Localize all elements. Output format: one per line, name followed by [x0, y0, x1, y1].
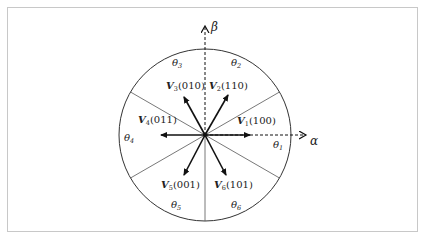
sector-label-5: θ5 [171, 199, 181, 212]
vector-label-v5: V5(001) [161, 179, 200, 192]
vector-label-v2: V2(110) [209, 80, 248, 93]
vector-label-v4: V4(011) [138, 114, 177, 127]
vector-v2 [205, 95, 228, 135]
origin-point [203, 133, 207, 137]
vector-label-v1: V1(100) [237, 115, 276, 128]
vector-label-v3: V3(010) [166, 80, 205, 93]
sector-label-3: θ3 [172, 57, 182, 70]
vector-label-v6: V6(101) [214, 179, 253, 192]
sector-label-2: θ2 [231, 57, 241, 70]
sector-label-4: θ4 [124, 132, 134, 145]
vector-diagram: α β V1(100) V2(110) V3(010) V4(011) V5(0… [0, 0, 424, 239]
sector-boundaries [131, 92, 280, 221]
sector-label-1: θ1 [273, 139, 283, 152]
alpha-axis-label: α [310, 134, 318, 148]
sector-label-6: θ6 [231, 199, 241, 212]
beta-axis-label: β [210, 20, 218, 34]
